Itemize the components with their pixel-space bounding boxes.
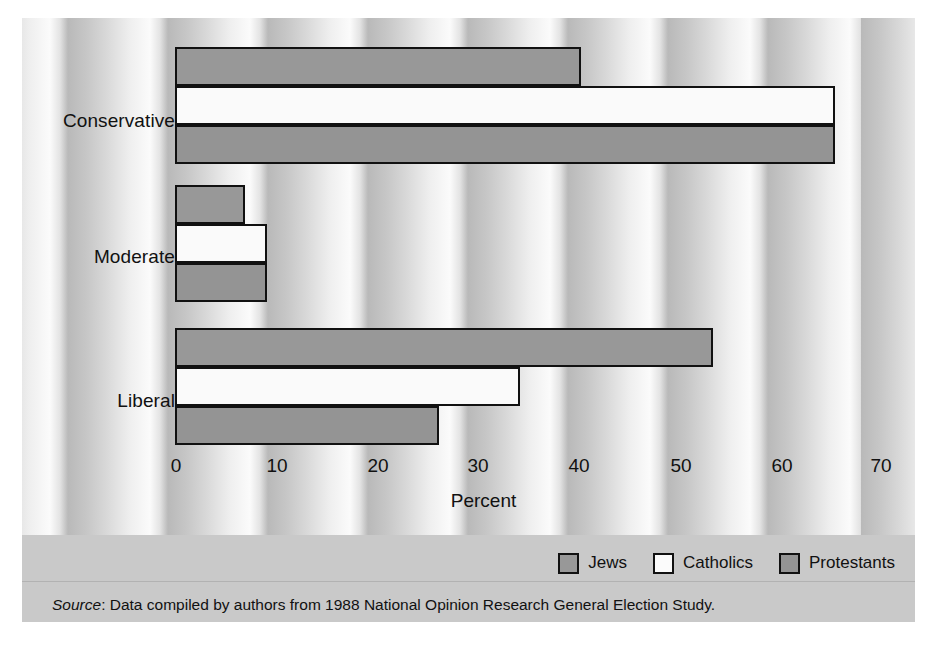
xtick-30: 30 xyxy=(467,455,488,477)
bar-liberal-catholics[interactable] xyxy=(175,367,520,406)
source-prefix: Source xyxy=(52,596,101,613)
category-label-moderate: Moderate xyxy=(0,246,175,268)
xtick-50: 50 xyxy=(670,455,691,477)
xtick-70: 70 xyxy=(870,455,891,477)
xtick-10: 10 xyxy=(266,455,287,477)
legend-label-jews: Jews xyxy=(588,553,627,573)
xtick-40: 40 xyxy=(568,455,589,477)
figure-panel: Conservative Moderate Liberal 0 10 20 30… xyxy=(22,18,915,622)
bar-conservative-jews[interactable] xyxy=(175,47,581,86)
bar-conservative-protestants[interactable] xyxy=(175,125,835,164)
bar-conservative-catholics[interactable] xyxy=(175,86,835,125)
bar-liberal-jews[interactable] xyxy=(175,328,713,367)
bar-moderate-jews[interactable] xyxy=(175,185,245,224)
legend-swatch-jews-icon xyxy=(558,553,579,574)
category-label-conservative: Conservative xyxy=(0,110,175,132)
legend-swatch-protestants-icon xyxy=(779,553,800,574)
plot-area: Conservative Moderate Liberal 0 10 20 30… xyxy=(22,18,915,535)
bar-moderate-catholics[interactable] xyxy=(175,224,267,263)
source-separator: : xyxy=(101,596,110,613)
source-text: Data compiled by authors from 1988 Natio… xyxy=(110,596,715,613)
source-divider xyxy=(22,581,915,582)
xtick-60: 60 xyxy=(771,455,792,477)
xtick-0: 0 xyxy=(171,455,182,477)
legend-label-protestants: Protestants xyxy=(809,553,895,573)
legend-item-jews[interactable]: Jews xyxy=(558,553,627,574)
bar-liberal-protestants[interactable] xyxy=(175,406,439,445)
source-note: Source: Data compiled by authors from 19… xyxy=(52,596,715,614)
xtick-20: 20 xyxy=(367,455,388,477)
chart-legend: Jews Catholics Protestants xyxy=(22,546,915,580)
legend-swatch-catholics-icon xyxy=(653,553,674,574)
legend-item-protestants[interactable]: Protestants xyxy=(779,553,895,574)
category-label-liberal: Liberal xyxy=(0,390,175,412)
legend-item-catholics[interactable]: Catholics xyxy=(653,553,753,574)
legend-label-catholics: Catholics xyxy=(683,553,753,573)
bar-moderate-protestants[interactable] xyxy=(175,263,267,302)
x-axis-label: Percent xyxy=(22,490,915,512)
